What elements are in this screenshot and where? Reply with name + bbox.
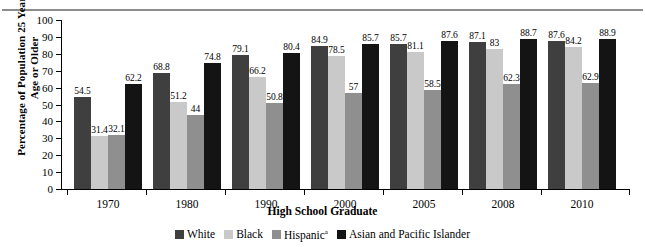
y-axis-line — [61, 20, 62, 190]
bar-value-label: 80.4 — [283, 42, 300, 52]
legend-label: White — [187, 228, 215, 240]
bar-value-label: 44 — [191, 104, 201, 114]
bar-value-label: 87.1 — [469, 31, 486, 41]
bar-hispanic[interactable]: 44 — [187, 115, 204, 189]
legend-footnote-marker: a — [325, 228, 328, 236]
bar-asian-and-pacific-islander[interactable]: 88.7 — [520, 39, 537, 189]
x-axis-title: High School Graduate — [0, 205, 645, 217]
y-tick-label: 10 — [42, 166, 53, 178]
bar-black[interactable]: 51.2 — [170, 102, 187, 189]
bar-group: 85.781.158.587.6 — [390, 20, 458, 189]
legend-swatch-icon — [272, 230, 281, 239]
legend-label: Hispanica — [284, 228, 328, 241]
bar-group: 79.166.250.880.4 — [232, 20, 300, 189]
x-group-tick — [225, 189, 226, 195]
bar-value-label: 74.8 — [204, 52, 221, 62]
x-axis-end-tick — [629, 189, 630, 195]
legend-item[interactable]: Asian and Pacific Islander — [337, 228, 470, 240]
chart-legend: WhiteBlackHispanicaAsian and Pacific Isl… — [0, 228, 645, 241]
bar-value-label: 54.5 — [74, 86, 91, 96]
bar-value-label: 32.1 — [108, 124, 125, 134]
bar-hispanic[interactable]: 62.3 — [503, 84, 520, 189]
bar-value-label: 84.2 — [565, 36, 582, 46]
legend-swatch-icon — [175, 230, 184, 239]
y-tick-mark — [56, 189, 61, 190]
bar-white[interactable]: 54.5 — [74, 97, 91, 189]
bar-value-label: 84.9 — [311, 35, 328, 45]
bar-asian-and-pacific-islander[interactable]: 88.9 — [599, 39, 616, 189]
y-tick-label: 80 — [42, 48, 53, 60]
bar-black[interactable]: 83 — [486, 49, 503, 189]
y-tick-label: 100 — [37, 14, 54, 26]
y-tick-mark — [56, 54, 61, 55]
bar-group: 87.684.262.988.9 — [548, 20, 616, 189]
bar-black[interactable]: 31.4 — [91, 136, 108, 189]
top-divider-rule — [2, 9, 643, 11]
bar-hispanic[interactable]: 57 — [345, 93, 362, 189]
legend-item[interactable]: Hispanica — [272, 228, 328, 241]
y-tick-label: 20 — [42, 149, 53, 161]
bar-white[interactable]: 79.1 — [232, 55, 249, 189]
bar-black[interactable]: 66.2 — [249, 77, 266, 189]
bar-group: 68.851.24474.8 — [153, 20, 221, 189]
bar-hispanic[interactable]: 50.8 — [266, 103, 283, 189]
bar-white[interactable]: 84.9 — [311, 46, 328, 189]
bar-hispanic[interactable]: 62.9 — [582, 83, 599, 189]
bar-black[interactable]: 81.1 — [407, 52, 424, 189]
x-group-tick — [304, 189, 305, 195]
x-group-tick — [146, 189, 147, 195]
bar-asian-and-pacific-islander[interactable]: 80.4 — [283, 53, 300, 189]
y-tick-label: 40 — [42, 115, 53, 127]
y-tick-label: 0 — [48, 183, 54, 195]
y-tick-label: 90 — [42, 31, 53, 43]
y-tick-mark — [56, 88, 61, 89]
y-tick-mark — [56, 71, 61, 72]
bar-value-label: 78.5 — [328, 45, 345, 55]
bar-value-label: 68.8 — [153, 62, 170, 72]
bar-asian-and-pacific-islander[interactable]: 74.8 — [204, 63, 221, 189]
bar-value-label: 79.1 — [232, 44, 249, 54]
bar-value-label: 66.2 — [249, 66, 266, 76]
bar-value-label: 87.6 — [548, 30, 565, 40]
x-group-tick — [383, 189, 384, 195]
bar-asian-and-pacific-islander[interactable]: 85.7 — [362, 44, 379, 189]
bar-value-label: 83 — [490, 38, 500, 48]
bar-value-label: 51.2 — [170, 91, 187, 101]
bar-value-label: 85.7 — [362, 33, 379, 43]
bar-value-label: 57 — [349, 82, 359, 92]
bar-value-label: 81.1 — [407, 41, 424, 51]
y-tick-mark — [56, 105, 61, 106]
bar-value-label: 58.5 — [424, 79, 441, 89]
legend-item[interactable]: Black — [224, 228, 263, 240]
bar-white[interactable]: 87.1 — [469, 42, 486, 189]
x-group-tick — [462, 189, 463, 195]
y-tick-label: 60 — [42, 82, 53, 94]
bar-group: 84.978.55785.7 — [311, 20, 379, 189]
bar-value-label: 50.8 — [266, 92, 283, 102]
legend-label: Asian and Pacific Islander — [349, 228, 470, 240]
bar-value-label: 62.9 — [582, 72, 599, 82]
bar-value-label: 88.9 — [599, 28, 616, 38]
y-tick-label: 30 — [42, 132, 53, 144]
y-tick-mark — [56, 20, 61, 21]
bar-black[interactable]: 84.2 — [565, 47, 582, 189]
chart-figure: Percentage of Population 25 Years of Age… — [0, 0, 645, 247]
legend-swatch-icon — [337, 230, 346, 239]
bar-value-label: 62.2 — [125, 73, 142, 83]
bar-asian-and-pacific-islander[interactable]: 62.2 — [125, 84, 142, 189]
bar-white[interactable]: 85.7 — [390, 44, 407, 189]
x-group-tick — [67, 189, 68, 195]
bar-white[interactable]: 68.8 — [153, 73, 170, 189]
legend-label: Black — [236, 228, 263, 240]
bar-value-label: 87.6 — [441, 30, 458, 40]
bar-value-label: 31.4 — [91, 125, 108, 135]
y-tick-mark — [56, 155, 61, 156]
y-tick-mark — [56, 121, 61, 122]
legend-item[interactable]: White — [175, 228, 215, 240]
bar-white[interactable]: 87.6 — [548, 41, 565, 189]
bar-hispanic[interactable]: 58.5 — [424, 90, 441, 189]
bar-asian-and-pacific-islander[interactable]: 87.6 — [441, 41, 458, 189]
bar-hispanic[interactable]: 32.1 — [108, 135, 125, 189]
legend-swatch-icon — [224, 230, 233, 239]
bar-black[interactable]: 78.5 — [328, 56, 345, 189]
